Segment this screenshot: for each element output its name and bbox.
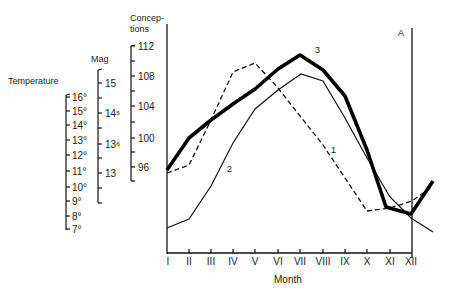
temperature-tick-label: 15° [72,106,87,117]
marker-a-label: A [398,28,404,38]
conceptions-tick-label: 108 [138,71,155,82]
temperature-axis-label: Temperature [8,76,59,86]
temperature-tick-label: 14° [72,120,87,131]
series-3-line [167,55,433,214]
month-tick-label: IX [340,256,350,267]
series-3-label: 3 [315,45,320,55]
conceptions-axis-label-1: Concep- [130,13,164,23]
temperature-tick-label: 16° [72,92,87,103]
month-tick-label: X [364,256,371,267]
chart: Temperature 16°15°14°13°12°11°10°9°8°7° … [0,0,455,293]
mag-axis-label: Mag [91,54,109,64]
conceptions-axis-label-2: tions [130,24,150,34]
temperature-axis: Temperature 16°15°14°13°12°11°10°9°8°7° [8,76,87,235]
temperature-tick-label: 10° [72,182,87,193]
month-tick-label: I [167,256,170,267]
conceptions-tick-label: 112 [138,41,154,52]
month-tick-label: XII [405,256,417,267]
plot-frame: A IIIIIIIVVVIVIIVIIIIXXXIXII Month [167,24,418,285]
temperature-tick-label: 11° [72,166,86,177]
temperature-tick-label: 9° [72,196,82,207]
month-tick-label: V [252,256,259,267]
month-tick-label: XI [385,256,394,267]
mag-tick-label: 13 [105,168,117,179]
conceptions-tick-label: 104 [138,101,155,112]
series-1-line [167,63,433,211]
series-2-label: 2 [227,164,232,174]
mag-tick-label: 14⁵ [105,108,120,119]
conceptions-tick-label: 96 [138,162,150,173]
month-tick-label: IV [228,256,238,267]
conceptions-tick-label: 100 [138,133,155,144]
mag-tick-label: 13⁶ [105,139,120,150]
x-axis-label: Month [274,274,302,285]
temperature-tick-label: 13° [72,135,87,146]
month-tick-label: II [186,256,192,267]
temperature-tick-label: 7° [72,224,82,235]
temperature-tick-label: 12° [72,150,87,161]
month-tick-label: III [207,256,215,267]
month-tick-label: VIII [315,256,330,267]
month-tick-label: VII [294,256,306,267]
mag-tick-label: 15 [105,78,117,89]
series-1-label: 1 [331,145,336,155]
conceptions-axis: Concep- tions 11210810410096 [130,13,164,181]
temperature-tick-label: 8° [72,211,82,222]
mag-axis: Mag 1514⁵13⁶13 [91,54,120,203]
month-tick-label: VI [273,256,282,267]
